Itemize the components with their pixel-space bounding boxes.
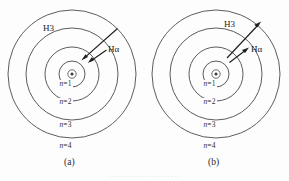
orbit-label-n1: n=1 bbox=[58, 80, 73, 88]
panel-b-canvas bbox=[144, 0, 289, 181]
panel-caption-a: (a) bbox=[64, 158, 75, 168]
nucleus-dot bbox=[71, 73, 74, 76]
orbit-label-n2: n=2 bbox=[202, 98, 217, 106]
figure-root: H3 Hα n=1 n=2 n=3 n=4 (a) H3 Hα n=1 n=2 … bbox=[0, 0, 289, 181]
panel-a-canvas bbox=[0, 0, 145, 181]
orbit-label-n3: n=3 bbox=[58, 121, 73, 129]
panel-caption-b: (b) bbox=[208, 158, 219, 168]
orbit-label-n3: n=3 bbox=[202, 121, 217, 129]
cropped-footer-text: ······················ bbox=[0, 172, 289, 181]
orbit-label-n2: n=2 bbox=[58, 98, 73, 106]
transition-label-hbeta: H3 bbox=[224, 20, 235, 29]
transition-label-halpha: Hα bbox=[108, 45, 119, 54]
panel-b: H3 Hα n=1 n=2 n=3 n=4 (b) bbox=[144, 0, 289, 181]
orbit-label-n1: n=1 bbox=[202, 80, 217, 88]
transition-arrowhead-hbeta bbox=[254, 22, 261, 28]
panel-a: H3 Hα n=1 n=2 n=3 n=4 (a) bbox=[0, 0, 145, 181]
orbit-label-n4: n=4 bbox=[58, 142, 73, 150]
nucleus-dot bbox=[215, 73, 218, 76]
orbit-label-n4: n=4 bbox=[202, 142, 217, 150]
transition-label-halpha: Hα bbox=[251, 45, 262, 54]
transition-label-hbeta: H3 bbox=[43, 24, 54, 33]
